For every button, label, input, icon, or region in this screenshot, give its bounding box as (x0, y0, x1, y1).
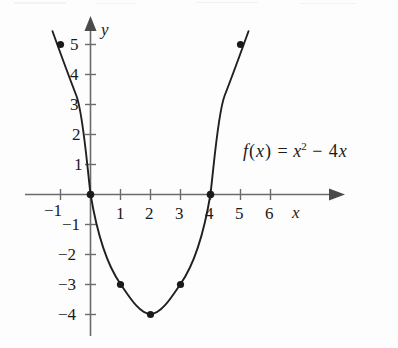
y-tick-label-1: 1 (74, 156, 83, 173)
y-axis-label: y (101, 21, 109, 38)
data-point (207, 191, 215, 199)
term-variable-2: x (339, 141, 347, 161)
equals-sign: = (277, 141, 289, 161)
data-point (87, 191, 95, 199)
y-axis-group (85, 16, 97, 336)
coefficient: 4 (328, 141, 339, 161)
minus-sign: − (311, 141, 323, 161)
y-tick-label--3: −3 (58, 276, 76, 293)
x-tick-label-6: 6 (265, 205, 274, 222)
exponent: 2 (301, 140, 307, 152)
data-points-group (57, 41, 244, 318)
y-tick-label-3: 3 (70, 96, 79, 113)
data-point (237, 41, 244, 48)
paren-close: ) (264, 141, 272, 161)
function-equation-label: f(x) = x2 − 4x (243, 142, 347, 160)
x-tick-label-5: 5 (235, 205, 244, 222)
term-variable: x (293, 141, 301, 161)
cartesian-plot (0, 0, 398, 348)
data-point (147, 311, 154, 318)
x-tick-label-4: 4 (205, 205, 214, 222)
x-tick-label--1: −1 (44, 202, 62, 219)
x-axis-label: x (292, 204, 300, 221)
x-axis-group (25, 189, 345, 201)
paren-open: ( (248, 141, 256, 161)
x-tick-label-3: 3 (175, 205, 184, 222)
x-tick-label-2: 2 (145, 205, 154, 222)
data-point (177, 281, 184, 288)
y-tick-label-5: 5 (70, 36, 79, 53)
graph-figure: 5 4 3 2 1 −1 −2 −3 −4 −1 1 2 3 4 5 6 x y… (0, 0, 398, 348)
x-tick-label-1: 1 (116, 205, 125, 222)
y-tick-label-2: 2 (72, 126, 81, 143)
y-tick-label--2: −2 (58, 246, 76, 263)
x-axis-arrowhead (329, 189, 345, 201)
y-tick-label--1: −1 (62, 216, 80, 233)
y-tick-label--4: −4 (58, 306, 76, 323)
data-point (117, 281, 124, 288)
data-point (57, 41, 64, 48)
function-variable: x (256, 141, 264, 161)
y-tick-label-4: 4 (70, 66, 79, 83)
y-axis-arrowhead (85, 16, 97, 31)
